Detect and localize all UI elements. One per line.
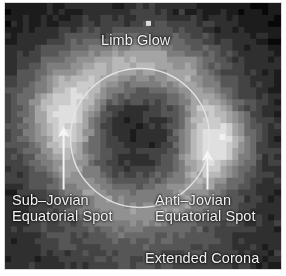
image-plate-frame: Limb Glow Sub–Jovian Equatorial Spot Ant…: [4, 2, 282, 270]
emission-map-canvas: [5, 3, 281, 269]
figure-root: Limb Glow Sub–Jovian Equatorial Spot Ant…: [0, 0, 286, 276]
